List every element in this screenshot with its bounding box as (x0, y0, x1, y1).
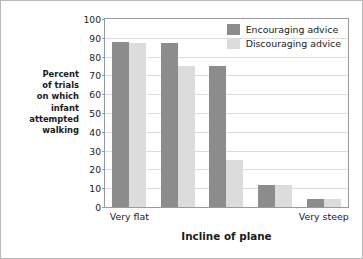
y-axis-label-line: Percent (5, 69, 79, 80)
y-tick-label: 60 (75, 90, 101, 99)
x-axis-ticks: Very flat Very steep (104, 211, 349, 225)
y-axis-label-line: on which (5, 91, 79, 102)
bar (324, 199, 341, 207)
y-tick-label: 50 (75, 109, 101, 118)
x-tick-label-very-steep: Very steep (299, 211, 349, 222)
bar (129, 43, 146, 207)
bar (178, 66, 195, 207)
bar (275, 185, 292, 207)
bar (258, 185, 275, 207)
y-tick-label: 0 (75, 203, 101, 212)
legend-item-encouraging-advice: Encouraging advice (227, 24, 341, 35)
y-tick-label: 10 (75, 184, 101, 193)
y-axis-ticks: 0102030405060708090100 (75, 18, 101, 208)
bar-group (105, 19, 154, 207)
y-axis-label-line: walking (5, 125, 79, 136)
bar (112, 42, 129, 207)
y-tick-label: 40 (75, 127, 101, 136)
bar (209, 66, 226, 207)
y-tick-label: 100 (75, 15, 101, 24)
legend-swatch-icon (227, 38, 240, 49)
y-tick-label: 90 (75, 33, 101, 42)
legend-item-discouraging-advice: Discouraging advice (227, 38, 341, 49)
y-axis-label: Percent of trials on which infant attemp… (5, 69, 79, 136)
y-axis-label-line: infant (5, 103, 79, 114)
y-tick-label: 80 (75, 52, 101, 61)
legend-label: Discouraging advice (246, 38, 341, 49)
y-tick-label: 70 (75, 71, 101, 80)
bar (226, 160, 243, 207)
y-tick-label: 20 (75, 165, 101, 174)
bar (307, 199, 324, 207)
y-tick-label: 30 (75, 146, 101, 155)
legend-label: Encouraging advice (246, 24, 339, 35)
bar-group (154, 19, 203, 207)
bar (161, 43, 178, 207)
x-axis-title: Incline of plane (104, 230, 349, 242)
legend-swatch-icon (227, 24, 240, 35)
x-tick-label-very-flat: Very flat (110, 211, 149, 222)
y-axis-label-line: attempted (5, 114, 79, 125)
legend: Encouraging advice Discouraging advice (227, 24, 341, 49)
plot-area: Encouraging advice Discouraging advice (104, 18, 349, 208)
bar-chart-figure: Percent of trials on which infant attemp… (0, 0, 363, 259)
y-axis-label-line: of trials (5, 80, 79, 91)
